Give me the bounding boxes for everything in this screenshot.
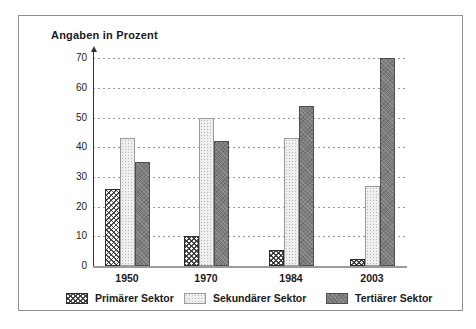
chart-title: Angaben in Prozent xyxy=(51,29,158,41)
legend-label-tertiaerer-sektor: Tertiärer Sektor xyxy=(355,292,432,304)
y-tick-label-10: 10 xyxy=(57,230,87,242)
primaerer-sektor-swatch-icon xyxy=(66,293,88,304)
y-tick-label-20: 20 xyxy=(57,201,87,213)
gridline-50 xyxy=(93,118,407,119)
sekundaerer-sektor-swatch-icon xyxy=(184,293,206,304)
bar-Primärer Sektor-1984 xyxy=(269,250,284,266)
y-tick-label-50: 50 xyxy=(57,112,87,124)
legend-item-sekundaerer-sektor: Sekundärer Sektor xyxy=(184,292,306,304)
tertiaerer-sektor-swatch-icon xyxy=(326,293,348,304)
bar-Sekundärer Sektor-1984 xyxy=(284,138,299,266)
legend-label-sekundaerer-sektor: Sekundärer Sektor xyxy=(213,292,306,304)
legend-label-primaerer-sektor: Primärer Sektor xyxy=(95,292,174,304)
x-axis-label-1984: 1984 xyxy=(269,272,313,285)
x-axis-label-1970: 1970 xyxy=(184,272,228,285)
gridline-40 xyxy=(93,147,407,148)
bar-Primärer Sektor-2003 xyxy=(350,259,365,266)
y-tick-label-60: 60 xyxy=(57,82,87,94)
x-axis-label-2003: 2003 xyxy=(350,272,394,285)
bar-Primärer Sektor-1970 xyxy=(184,236,199,266)
bar-Tertiärer Sektor-1970 xyxy=(214,141,229,266)
bar-Sekundärer Sektor-1970 xyxy=(199,118,214,266)
y-axis-arrow-icon xyxy=(91,46,97,52)
bar-Primärer Sektor-1950 xyxy=(105,189,120,266)
chart-window: Angaben in Prozent 010203040506070195019… xyxy=(0,0,476,329)
x-axis-label-1950: 1950 xyxy=(105,272,149,285)
bar-Sekundärer Sektor-1950 xyxy=(120,138,135,266)
y-tick-label-40: 40 xyxy=(57,141,87,153)
bar-Tertiärer Sektor-1950 xyxy=(135,162,150,266)
bar-Sekundärer Sektor-2003 xyxy=(365,186,380,266)
bar-Tertiärer Sektor-2003 xyxy=(380,58,395,266)
x-axis-line xyxy=(93,266,407,268)
chart-frame: Angaben in Prozent 010203040506070195019… xyxy=(18,15,463,311)
y-axis-line xyxy=(93,52,94,266)
legend-item-primaerer-sektor: Primärer Sektor xyxy=(66,292,174,304)
y-tick-label-0: 0 xyxy=(57,260,87,272)
bar-Tertiärer Sektor-1984 xyxy=(299,106,314,266)
gridline-60 xyxy=(93,88,407,89)
y-tick-label-70: 70 xyxy=(57,52,87,64)
gridline-70 xyxy=(93,58,407,59)
legend-item-tertiaerer-sektor: Tertiärer Sektor xyxy=(326,292,432,304)
y-tick-label-30: 30 xyxy=(57,171,87,183)
